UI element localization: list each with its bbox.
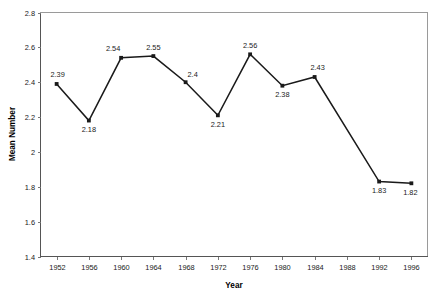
data-point-marker[interactable] [409,181,413,185]
data-point-marker[interactable] [248,52,252,56]
x-tick-label: 1988 [339,263,355,272]
y-tick-label: 2.8 [25,9,35,18]
chart-svg: 1.41.61.822.22.42.62.8 19521956196019641… [0,0,438,299]
data-point-label: 1.83 [372,186,386,195]
data-point-label: 2.4 [187,70,197,79]
data-point-label: 2.54 [106,44,120,53]
data-point-marker[interactable] [87,119,91,123]
x-tick-label: 1960 [113,263,129,272]
data-point-label: 1.82 [403,188,417,197]
y-tick-label: 2.4 [25,78,35,87]
y-tick-label: 1.6 [25,218,35,227]
x-tick-label: 1968 [178,263,194,272]
data-point-marker[interactable] [184,80,188,84]
x-tick-label: 1952 [49,263,65,272]
data-point-label: 2.21 [211,120,225,129]
data-point-marker[interactable] [216,113,220,117]
data-point-label: 2.39 [50,70,64,79]
y-tick-label: 2.2 [25,113,35,122]
data-point-marker[interactable] [313,75,317,79]
data-point-label: 2.56 [243,41,257,50]
line-chart: 1.41.61.822.22.42.62.8 19521956196019641… [0,0,438,299]
data-point-label: 2.18 [82,125,96,134]
data-point-marker[interactable] [55,82,59,86]
data-point-marker[interactable] [119,56,123,60]
data-point-marker[interactable] [377,180,381,184]
y-tick-label: 1.4 [25,253,35,262]
data-point-marker[interactable] [151,54,155,58]
data-point-label: 2.38 [275,90,289,99]
data-point-label: 2.55 [146,43,160,52]
x-tick-label: 1996 [403,263,419,272]
x-tick-label: 1984 [307,263,323,272]
y-tick-label: 1.8 [25,183,35,192]
x-tick-label: 1992 [371,263,387,272]
y-tick-label: 2.6 [25,43,35,52]
x-tick-label: 1972 [210,263,226,272]
data-point-marker[interactable] [280,84,284,88]
y-tick-label: 2 [31,148,35,157]
x-tick-label: 1964 [145,263,161,272]
x-tick-label: 1980 [274,263,290,272]
data-point-label: 2.43 [310,63,324,72]
x-tick-label: 1976 [242,263,258,272]
y-axis-title: Mean Number [8,106,17,161]
x-tick-label: 1956 [81,263,97,272]
chart-background [0,0,438,299]
x-axis-title: Year [225,281,243,290]
